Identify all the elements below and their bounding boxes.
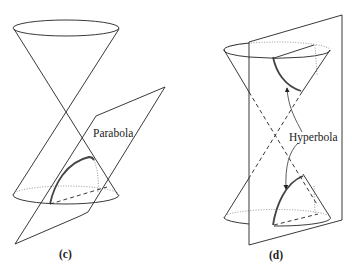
conic-sections-figure: Parabola (c) Hy [0,0,352,267]
hyperbola-lower-chord [274,214,318,225]
cutting-plane-bottom-left [15,216,80,244]
hyperbola-upper-branch [273,57,301,91]
cutting-plane-vertical [249,15,342,245]
cutting-plane-bottom [80,212,88,216]
upper-cone-rim-front [249,50,330,58]
caption-c: (c) [59,248,72,261]
upper-cone-rim [13,20,119,36]
cone-lower-left [224,178,249,218]
lower-cone-rim-front [224,218,249,224]
panel-c-parabola: Parabola (c) [13,20,165,261]
upper-cone-rim-back [224,42,330,50]
parabola-curve [50,157,94,204]
cone-lower-right [303,174,330,217]
arrow-to-upper-branch [287,88,302,132]
hyperbola-label: Hyperbola [289,131,338,144]
cutting-plane-left [15,116,96,244]
upper-cone-rim-left-top [224,43,249,50]
caption-d: (d) [269,249,283,262]
parabola-label: Parabola [93,127,133,139]
cone-dashed-left [249,92,318,206]
cutting-plane [88,87,165,212]
panel-d-hyperbola: Hyperbola (d) [224,15,342,262]
hyperbola-lower-branch [273,176,303,225]
upper-rim-right-solid [274,45,314,58]
